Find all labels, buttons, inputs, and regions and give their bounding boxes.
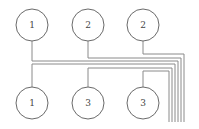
wiring-diagram: 1 2 2 1 3 3 bbox=[0, 0, 199, 129]
node-bottom-3: 3 bbox=[127, 87, 159, 119]
node-bottom-1: 1 bbox=[16, 87, 48, 119]
node-label: 2 bbox=[85, 20, 91, 30]
node-top-3: 2 bbox=[127, 9, 159, 41]
node-top-1: 1 bbox=[16, 9, 48, 41]
node-top-2: 2 bbox=[72, 9, 104, 41]
wire-bundle bbox=[32, 41, 184, 122]
node-label: 1 bbox=[29, 98, 35, 108]
node-label: 3 bbox=[85, 98, 91, 108]
node-bottom-2: 3 bbox=[72, 87, 104, 119]
node-label: 3 bbox=[140, 98, 146, 108]
node-label: 2 bbox=[140, 20, 146, 30]
node-label: 1 bbox=[29, 20, 35, 30]
